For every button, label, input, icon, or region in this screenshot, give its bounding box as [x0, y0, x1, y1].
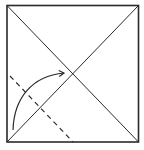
fold-arrow — [13, 73, 64, 130]
valley-fold-line — [10, 76, 73, 142]
origami-diagram — [0, 0, 144, 150]
